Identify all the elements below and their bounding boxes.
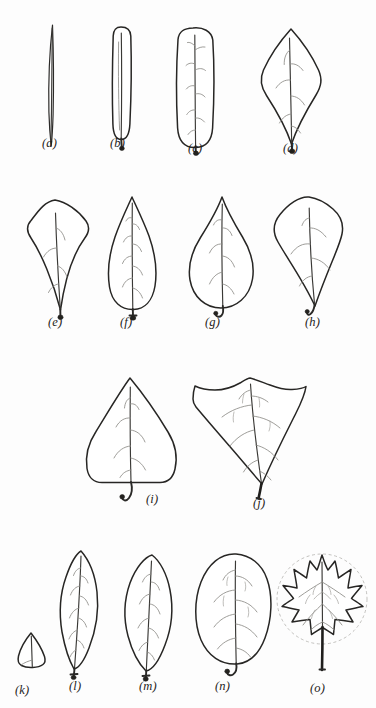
figure-label-h: (h) (305, 315, 320, 330)
leaf-m-outline (125, 555, 172, 671)
figure-label-o: (o) (310, 681, 325, 696)
figure-label-g: (g) (205, 315, 220, 330)
leaf-figure-b (96, 24, 148, 152)
figure-label-i: (i) (146, 492, 158, 507)
leaf-figure-d (248, 26, 334, 158)
leaf-figure-l (48, 548, 110, 682)
leaf-o-petiole (322, 627, 323, 670)
figure-label-k: (k) (15, 683, 29, 698)
figure-label-b: (b) (110, 136, 125, 151)
leaf-h-outline (274, 197, 342, 306)
leaf-m-petiole-flare (143, 676, 150, 677)
figure-label-c: (c) (188, 141, 202, 156)
figure-label-m: (m) (139, 679, 157, 694)
leaf-figure-c (163, 24, 229, 156)
leaf-figure-h (265, 194, 357, 326)
figure-label-e: (e) (48, 315, 62, 330)
figure-label-j: (j) (253, 496, 265, 511)
leaf-i-petiole-base (120, 495, 125, 499)
leaf-figure-a (30, 22, 76, 150)
leaf-figure-j (188, 372, 312, 514)
figure-label-a: (a) (42, 136, 57, 151)
leaf-figure-i (80, 374, 190, 514)
figure-label-d: (d) (283, 141, 298, 156)
figure-label-n: (n) (215, 679, 230, 694)
figure-label-f: (f) (120, 315, 132, 330)
leaf-l-petiole-flare (71, 674, 78, 675)
leaf-figure-n (188, 550, 280, 684)
leaf-figure-g (177, 194, 269, 326)
leaf-n-petiole-base (225, 669, 230, 673)
leaf-h-petiole-base (305, 310, 309, 314)
leaf-e-outline (27, 200, 88, 310)
leaf-o-midrib (322, 562, 323, 627)
leaf-figure-m (110, 552, 186, 684)
leaf-figure-f (97, 194, 171, 326)
leaf-figure-e (18, 196, 102, 324)
figure-label-l: (l) (69, 679, 81, 694)
leaf-g-outline (189, 197, 253, 308)
leaf-figure-o (272, 548, 372, 688)
illustration-plate: (a) (b) (c) (d) (e) (f) (g) (h) (i) (j) … (0, 0, 376, 708)
